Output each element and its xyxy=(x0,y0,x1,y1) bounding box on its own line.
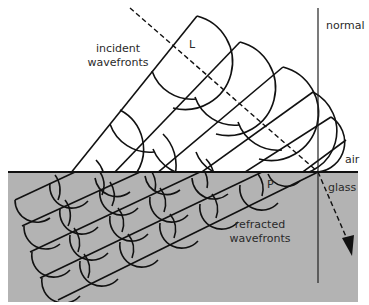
refracted-label: refracted xyxy=(235,218,285,231)
refraction-diagram: incident wavefronts refracted wavefronts… xyxy=(0,0,369,305)
point-L-label: L xyxy=(189,38,196,51)
refracted-label-2: wavefronts xyxy=(230,232,291,245)
incident-label-2: wavefronts xyxy=(88,56,149,69)
incident-label: incident xyxy=(96,42,141,55)
incident-wavefronts xyxy=(70,16,346,176)
glass-label: glass xyxy=(328,181,357,194)
air-label: air xyxy=(345,153,360,166)
incident-ray xyxy=(130,8,318,172)
point-P-label: P xyxy=(267,178,274,191)
normal-label: normal xyxy=(326,19,365,32)
